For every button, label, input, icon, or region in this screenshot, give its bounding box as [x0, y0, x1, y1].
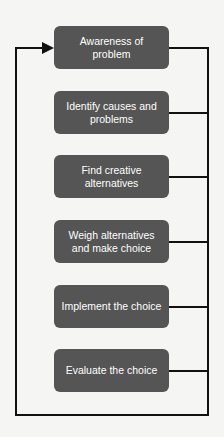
connector-line	[169, 176, 209, 178]
right-vertical-line	[207, 47, 209, 416]
step-evaluate-choice: Evaluate the choice	[54, 349, 169, 392]
step-weigh-alternatives: Weigh alternatives and make choice	[54, 220, 169, 263]
connector-line	[169, 241, 209, 243]
step-label: Find creative alternatives	[60, 164, 163, 190]
arrow-right-icon	[42, 42, 54, 54]
step-identify-causes: Identify causes and problems	[54, 91, 169, 134]
connector-line	[169, 370, 209, 372]
connector-line	[169, 306, 209, 308]
step-label: Implement the choice	[62, 300, 162, 313]
connector-line	[169, 47, 209, 49]
step-label: Awareness of problem	[60, 35, 163, 61]
step-implement-choice: Implement the choice	[54, 285, 169, 328]
connector-line	[169, 112, 209, 114]
step-label: Evaluate the choice	[66, 364, 158, 377]
bottom-return-line	[15, 414, 209, 416]
step-label: Weigh alternatives and make choice	[60, 229, 163, 255]
arrow-shaft-line	[15, 47, 45, 49]
step-label: Identify causes and problems	[60, 100, 163, 126]
left-vertical-line	[15, 47, 17, 416]
step-find-alternatives: Find creative alternatives	[54, 155, 169, 198]
step-awareness-of-problem: Awareness of problem	[54, 26, 169, 69]
